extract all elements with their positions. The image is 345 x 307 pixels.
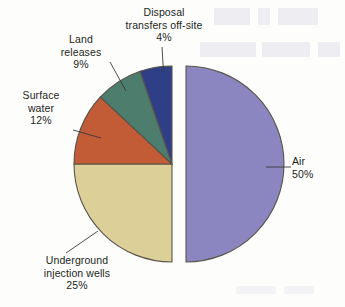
slice-label-line1: Disposal: [108, 6, 220, 19]
slice-label-disposal-transfers-off-site: Disposal transfers off-site 4%: [108, 6, 220, 44]
slice-label-underground-injection-wells: Underground injection wells 25%: [24, 254, 130, 292]
slice-label-line1: Air: [292, 155, 334, 168]
pie-slice-underground-injection-wells[interactable]: [74, 164, 172, 262]
slice-label-line1: Surface: [8, 89, 74, 102]
slice-label-percent: 25%: [24, 279, 130, 292]
pie-slice-air[interactable]: [186, 66, 284, 262]
slice-label-surface-water: Surface water 12%: [8, 89, 74, 127]
slice-label-line2: injection wells: [24, 267, 130, 280]
slice-label-percent: 50%: [292, 168, 334, 181]
slice-label-air: Air 50%: [292, 155, 334, 180]
slice-label-line2: water: [8, 102, 74, 115]
slice-label-percent: 9%: [48, 58, 114, 71]
slice-label-percent: 4%: [108, 31, 220, 44]
pie-chart-figure: Disposal transfers off-site 4% Land rele…: [0, 0, 345, 307]
slice-label-line2: releases: [48, 46, 114, 59]
slice-label-percent: 12%: [8, 114, 74, 127]
slice-label-line2: transfers off-site: [108, 19, 220, 32]
slice-label-land-releases: Land releases 9%: [48, 33, 114, 71]
slice-label-line1: Land: [48, 33, 114, 46]
leader-line-underground: [66, 231, 98, 253]
slice-label-line1: Underground: [24, 254, 130, 267]
